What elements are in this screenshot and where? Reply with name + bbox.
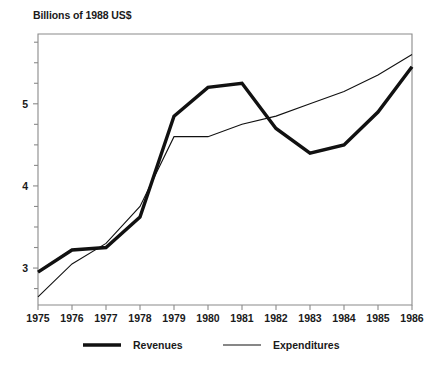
svg-text:1983: 1983 <box>298 312 322 324</box>
svg-text:1977: 1977 <box>94 312 118 324</box>
y-axis-ticks <box>33 42 38 288</box>
series-line-expenditures <box>38 55 412 297</box>
data-series-group <box>38 55 412 297</box>
x-axis-ticks <box>38 305 412 310</box>
svg-text:3: 3 <box>22 262 28 274</box>
svg-text:4: 4 <box>22 180 28 192</box>
svg-text:1975: 1975 <box>26 312 50 324</box>
x-axis-tick-labels: 1975197619771978197919801981198219831984… <box>26 312 424 324</box>
chart-legend: RevenuesExpenditures <box>83 339 340 351</box>
plot-frame <box>38 34 412 305</box>
series-line-revenues <box>38 67 412 272</box>
svg-text:5: 5 <box>22 98 28 110</box>
y-axis-tick-labels: 345 <box>22 98 28 274</box>
svg-text:1985: 1985 <box>366 312 390 324</box>
svg-text:1984: 1984 <box>332 312 356 324</box>
legend-label-revenues: Revenues <box>133 339 183 351</box>
svg-text:1978: 1978 <box>128 312 152 324</box>
svg-text:1980: 1980 <box>196 312 220 324</box>
svg-text:1982: 1982 <box>264 312 288 324</box>
svg-text:1981: 1981 <box>230 312 254 324</box>
chart-container: Billions of 1988 US$ 345 197519761977197… <box>0 0 432 369</box>
legend-label-expenditures: Expenditures <box>273 339 340 351</box>
line-chart: 345 197519761977197819791980198119821983… <box>0 0 432 369</box>
svg-text:1979: 1979 <box>162 312 186 324</box>
svg-text:1986: 1986 <box>400 312 424 324</box>
svg-text:1976: 1976 <box>60 312 84 324</box>
